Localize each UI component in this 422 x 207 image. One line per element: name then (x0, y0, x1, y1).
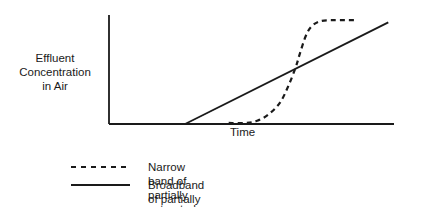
legend-label-line-2: Broadband of partially saturated charcoa… (148, 178, 216, 207)
y-axis-label: Effluent Concentration in Air (10, 51, 100, 93)
legend-label-text: Broadband of partially saturated charcoa… (148, 178, 216, 207)
chart (0, 0, 422, 207)
series-line-2 (185, 22, 388, 124)
y-axis-label-line: Concentration (10, 65, 100, 79)
y-axis-label-line: in Air (10, 79, 100, 93)
series-line-1 (229, 20, 357, 123)
y-axis-label-line: Effluent (10, 51, 100, 65)
x-axis-label: Time (230, 126, 255, 138)
